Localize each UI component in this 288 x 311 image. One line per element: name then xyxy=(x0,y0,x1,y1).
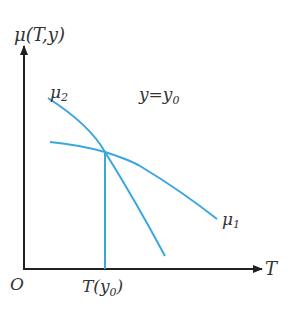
y-axis-label: μ(T,y) xyxy=(14,24,65,45)
condition-label: y=y0 xyxy=(138,84,179,107)
curve-mu2 xyxy=(48,98,165,256)
curve2-label: μ2 xyxy=(50,82,68,104)
diagram-svg: μ(T,y) T O y=y0 μ2 μ1 T(y0) xyxy=(0,0,288,311)
curve-mu1 xyxy=(50,142,217,219)
origin-label: O xyxy=(10,274,24,294)
tick-label-T-y0: T(y0) xyxy=(82,276,123,299)
diagram-canvas: μ(T,y) T O y=y0 μ2 μ1 T(y0) xyxy=(0,0,288,311)
x-axis-label: T xyxy=(265,258,279,279)
curve1-label: μ1 xyxy=(222,209,240,231)
